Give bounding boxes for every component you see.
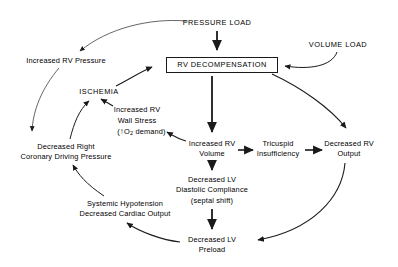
node-decreased-lv-compliance-line3: (septal shift) [191, 196, 233, 205]
node-increased-rv-pressure: Increased RV Pressure [26, 56, 105, 65]
node-decreased-lv-preload-line1: Decreased LV [188, 235, 236, 244]
edge-decreased-coronary-to-ischemia [70, 101, 89, 139]
edge-rv-decompensation-to-decreased-rv-output [272, 74, 346, 128]
node-increased-rv-wall-stress-line1: Increased RV [114, 105, 160, 114]
edge-wall-stress-to-ischemia [101, 99, 113, 106]
node-tricuspid-insufficiency-line1: Tricuspid [262, 139, 293, 148]
node-decreased-rv-output-line2: Output [337, 149, 360, 158]
node-ischemia: ISCHEMIA [79, 87, 118, 96]
edge-systemic-hypotension-to-decreased-coronary [73, 165, 104, 196]
node-decreased-coronary-line2: Coronary Driving Pressure [21, 152, 112, 161]
node-rv-decompensation-label: RV DECOMPENSATION [177, 60, 266, 69]
node-tricuspid-insufficiency-line2: Insufficiency [257, 149, 299, 158]
edge-increased-rv-pressure-to-decreased-coronary [32, 68, 59, 131]
edge-pressure-load-to-increased-rv-pressure [80, 20, 186, 51]
node-systemic-hypotension-line2: Decreased Cardiac Output [79, 209, 170, 218]
node-decreased-coronary-line1: Decreased Right [37, 142, 94, 151]
node-pressure-load: PRESSURE LOAD [183, 18, 252, 27]
edge-increased-rv-volume-to-wall-stress [167, 132, 186, 141]
node-decreased-lv-compliance-line1: Decreased LV [188, 175, 236, 184]
node-volume-load: VOLUME LOAD [309, 40, 367, 49]
node-decreased-lv-preload-line2: Preload [199, 245, 226, 254]
edge-volume-load-to-rv-decompensation [285, 52, 337, 67]
edge-decreased-rv-output-to-lv-preload [258, 163, 345, 240]
node-increased-rv-volume-line2: Volume [199, 149, 225, 158]
node-increased-rv-wall-stress-line3: (↑O2 demand) [108, 118, 165, 148]
edge-ischemia-to-rv-decompensation [116, 67, 152, 86]
node-rv-decompensation-box: RV DECOMPENSATION [166, 57, 278, 73]
diagram-canvas: PRESSURE LOAD VOLUME LOAD RV DECOMPENSAT… [0, 0, 398, 267]
edge-lv-preload-to-systemic-hypotension [127, 223, 180, 242]
node-decreased-lv-compliance-line2: Diastolic Compliance [176, 185, 248, 194]
node-systemic-hypotension-line1: Systemic Hypotension [87, 199, 163, 208]
node-increased-rv-volume-line1: Increased RV [189, 139, 235, 148]
node-decreased-rv-output-line1: Decreased RV [324, 139, 374, 148]
